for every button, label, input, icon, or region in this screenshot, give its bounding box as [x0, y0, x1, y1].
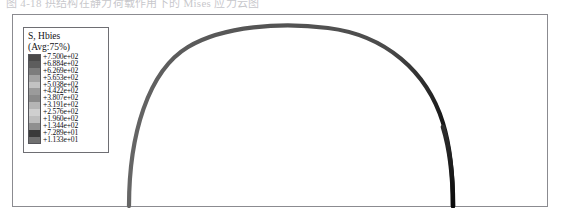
legend-swatch [28, 102, 41, 109]
arch-right-springing-highlight [443, 127, 453, 206]
plot-frame: S, Hbies (Avg:75%) +7.500e+02 +6.884e+02… [12, 14, 548, 207]
legend-colorbar: +7.500e+02 +6.884e+02 +6.269e+02 +5.653e… [28, 54, 108, 144]
legend-swatch [28, 61, 41, 68]
legend-value-label: +1.133e+01 [43, 137, 78, 144]
figure-caption-text: 图 4-18 拱结构在静力荷载作用下的 Mises 应力云图 [6, 0, 259, 10]
legend-swatch [28, 109, 41, 116]
legend-swatch [28, 75, 41, 82]
legend-swatch [28, 54, 41, 61]
legend-swatch [28, 88, 41, 95]
legend-swatch [28, 95, 41, 102]
stress-legend-panel: S, Hbies (Avg:75%) +7.500e+02 +6.884e+02… [23, 27, 109, 153]
legend-title: S, Hbies [28, 31, 108, 42]
legend-swatch [28, 137, 41, 144]
legend-swatch [28, 116, 41, 123]
legend-swatch [28, 82, 41, 89]
legend-swatch [28, 123, 41, 130]
legend-row: +1.133e+01 [28, 137, 108, 144]
legend-swatch [28, 68, 41, 75]
figure-caption-strip: 图 4-18 拱结构在静力荷载作用下的 Mises 应力云图 [0, 0, 562, 11]
arch-rib-path [129, 25, 453, 206]
legend-swatch [28, 130, 41, 137]
